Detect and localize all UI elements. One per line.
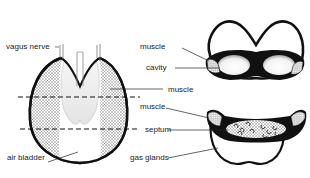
air-bladder-longitudinal (18, 44, 140, 163)
label-muscle-bottom: muscle (140, 102, 165, 111)
cross-section-upper (110, 21, 304, 89)
label-air-bladder: air bladder (7, 153, 45, 162)
label-cavity: cavity (146, 63, 166, 72)
label-muscle-mid: muscle (168, 85, 193, 94)
label-vagus-nerve: vagus nerve (6, 42, 50, 51)
cross-section-lower (166, 108, 306, 164)
cavity-right (263, 55, 295, 75)
diagram-svg (0, 0, 310, 178)
cavity-left (218, 55, 250, 75)
label-septum: septum (145, 125, 171, 134)
diagram-canvas: vagus nerve air bladder muscle cavity mu… (0, 0, 310, 178)
label-muscle-top: muscle (140, 42, 165, 51)
vagus-nerve-left (60, 44, 63, 59)
label-gas-glands: gas glands (130, 153, 169, 162)
vagus-nerve-right (97, 44, 100, 59)
